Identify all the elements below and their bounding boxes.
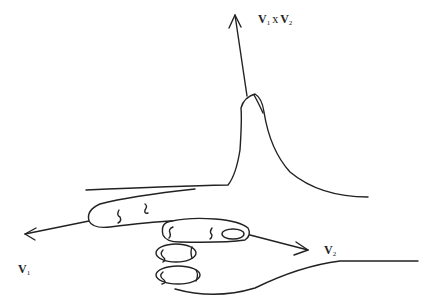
cross-right-symbol: V [280, 12, 289, 26]
ring-finger [156, 244, 196, 262]
thumb [86, 94, 368, 197]
v2-subscript: 2 [333, 250, 337, 258]
hand-drawing [0, 0, 435, 308]
middle-finger [162, 218, 249, 242]
palm-edge [175, 261, 418, 294]
cross-left-subscript: 1 [267, 19, 271, 27]
little-finger [156, 266, 200, 284]
v2-arrow [250, 235, 308, 255]
cross-product-arrow [229, 15, 247, 96]
v1-label: V1 [18, 262, 30, 277]
cross-left-symbol: V [258, 12, 267, 26]
cross-product-label: V1xV2 [258, 12, 292, 27]
v1-arrow [25, 221, 89, 240]
right-hand-rule-diagram: V1xV2 V1 V2 [0, 0, 435, 308]
v1-subscript: 1 [27, 269, 31, 277]
v2-symbol: V [324, 243, 333, 257]
index-finger [88, 189, 195, 227]
v1-symbol: V [18, 262, 27, 276]
cross-right-subscript: 2 [289, 19, 293, 27]
v2-label: V2 [324, 243, 336, 258]
cross-operator: x [272, 12, 278, 26]
